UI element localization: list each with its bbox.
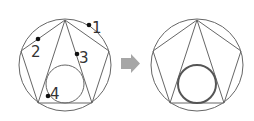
label-3: 3 — [79, 49, 89, 67]
label-4: 4 — [50, 85, 60, 103]
diagram-canvas: 1 2 3 4 — [0, 0, 254, 121]
label-1: 1 — [92, 19, 102, 37]
arrow-right-icon — [121, 54, 140, 73]
point-2 — [36, 37, 41, 42]
incircle-highlighted — [178, 65, 216, 103]
pentagon — [153, 20, 241, 103]
point-1 — [87, 23, 92, 28]
inner-triangle — [170, 20, 224, 103]
label-2: 2 — [31, 43, 41, 61]
